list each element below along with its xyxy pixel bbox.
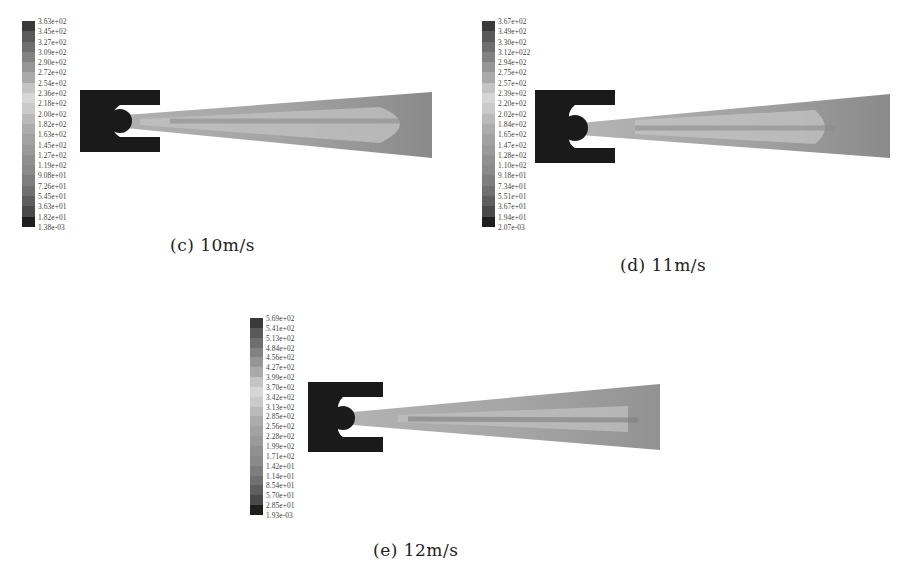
- colorbar-ticks-c: 3.63e+023.45e+023.27e+023.09e+022.90e+02…: [38, 17, 67, 233]
- colorbar-tick-label: 2.54e+02: [38, 79, 67, 89]
- colorbar-segment: [250, 485, 263, 495]
- colorbar-segment: [482, 124, 495, 134]
- colorbar-segment: [482, 103, 495, 113]
- colorbar-segment: [250, 367, 263, 377]
- colorbar-segment: [482, 52, 495, 62]
- colorbar-segment: [482, 114, 495, 124]
- colorbar-segment: [482, 72, 495, 82]
- colorbar-tick-label: 4.56e+02: [266, 353, 295, 363]
- colorbar-segment: [22, 134, 35, 144]
- colorbar-segment: [482, 206, 495, 216]
- colorbar-tick-label: 3.09e+02: [38, 48, 67, 58]
- colorbar-segment: [250, 338, 263, 348]
- colorbar-segment: [22, 145, 35, 155]
- colorbar-segment: [22, 21, 35, 31]
- colorbar-segment: [250, 397, 263, 407]
- colorbar-ticks-e: 5.69e+025.41e+025.13e+024.84e+024.56e+02…: [266, 314, 295, 521]
- colorbar-segment: [22, 217, 35, 227]
- colorbar-tick-label: 3.30e+02: [498, 38, 530, 48]
- colorbar-tick-label: 2.90e+02: [38, 58, 67, 68]
- colorbar-tick-label: 2.36e+02: [38, 89, 67, 99]
- colorbar-tick-label: 1.93e-03: [266, 511, 295, 521]
- colorbar-tick-label: 3.13e+02: [266, 403, 295, 413]
- colorbar-tick-label: 1.27e+02: [38, 151, 67, 161]
- caption-d: (d) 11m/s: [620, 255, 706, 275]
- colorbar-tick-label: 2.57e+02: [498, 79, 530, 89]
- colorbar-tick-label: 3.45e+02: [38, 27, 67, 37]
- colorbar-tick-label: 1.38e-03: [38, 223, 67, 233]
- colorbar-tick-label: 4.27e+02: [266, 363, 295, 373]
- colorbar-segment: [250, 446, 263, 456]
- colorbar-segment: [22, 124, 35, 134]
- colorbar-tick-label: 2.07e-03: [498, 223, 530, 233]
- colorbar-tick-label: 3.99e+02: [266, 373, 295, 383]
- colorbar-segment: [250, 328, 263, 338]
- colorbar-tick-label: 5.51e+01: [498, 192, 530, 202]
- velocity-contour-plot-c: [80, 85, 440, 165]
- colorbar-segment: [250, 407, 263, 417]
- velocity-contour-plot-d: [535, 90, 905, 165]
- colorbar-tick-label: 3.12e+022: [498, 48, 530, 58]
- colorbar-segment: [250, 436, 263, 446]
- colorbar-tick-label: 1.84e+02: [498, 120, 530, 130]
- colorbar-tick-label: 2.85e+02: [266, 412, 295, 422]
- colorbar-segment: [250, 466, 263, 476]
- colorbar-segment: [482, 134, 495, 144]
- colorbar-segment: [250, 456, 263, 466]
- colorbar-tick-label: 5.41e+02: [266, 324, 295, 334]
- colorbar-segment: [482, 31, 495, 41]
- colorbar-c: [22, 21, 35, 227]
- colorbar-segment: [22, 186, 35, 196]
- colorbar-segment: [22, 175, 35, 185]
- colorbar-e: [250, 318, 263, 515]
- velocity-contour-plot-e: [308, 382, 668, 457]
- colorbar-segment: [482, 145, 495, 155]
- colorbar-tick-label: 5.13e+02: [266, 334, 295, 344]
- colorbar-segment: [22, 103, 35, 113]
- colorbar-tick-label: 3.67e+01: [498, 202, 530, 212]
- colorbar-segment: [250, 348, 263, 358]
- colorbar-tick-label: 1.65e+02: [498, 130, 530, 140]
- colorbar-tick-label: 2.94e+02: [498, 58, 530, 68]
- colorbar-segment: [250, 357, 263, 367]
- colorbar-segment: [482, 165, 495, 175]
- colorbar-segment: [250, 476, 263, 486]
- colorbar-tick-label: 7.34e+01: [498, 182, 530, 192]
- colorbar-tick-label: 1.82e+02: [38, 120, 67, 130]
- colorbar-segment: [482, 93, 495, 103]
- colorbar-segment: [22, 83, 35, 93]
- colorbar-tick-label: 5.70e+01: [266, 491, 295, 501]
- colorbar-tick-label: 1.28e+02: [498, 151, 530, 161]
- colorbar-tick-label: 1.71e+02: [266, 452, 295, 462]
- panel-e: 5.69e+025.41e+025.13e+024.84e+024.56e+02…: [228, 297, 678, 565]
- colorbar-d: [482, 21, 495, 227]
- colorbar-segment: [250, 426, 263, 436]
- colorbar-tick-label: 2.02e+02: [498, 110, 530, 120]
- colorbar-tick-label: 1.10e+02: [498, 161, 530, 171]
- colorbar-tick-label: 3.70e+02: [266, 383, 295, 393]
- colorbar-segment: [250, 387, 263, 397]
- colorbar-tick-label: 9.18e+01: [498, 171, 530, 181]
- colorbar-segment: [22, 72, 35, 82]
- panel-d: 3.67e+023.49e+023.30e+023.12e+0222.94e+0…: [460, 0, 906, 290]
- colorbar-tick-label: 1.45e+02: [38, 141, 67, 151]
- colorbar-segment: [482, 21, 495, 31]
- colorbar-tick-label: 2.28e+02: [266, 432, 295, 442]
- colorbar-segment: [22, 196, 35, 206]
- colorbar-tick-label: 2.18e+02: [38, 99, 67, 109]
- colorbar-ticks-d: 3.67e+023.49e+023.30e+023.12e+0222.94e+0…: [498, 17, 530, 233]
- colorbar-tick-label: 3.42e+02: [266, 393, 295, 403]
- colorbar-segment: [22, 155, 35, 165]
- colorbar-segment: [250, 505, 263, 515]
- colorbar-segment: [250, 495, 263, 505]
- panel-c: 3.63e+023.45e+023.27e+023.09e+022.90e+02…: [0, 0, 450, 270]
- colorbar-tick-label: 2.72e+02: [38, 68, 67, 78]
- colorbar-tick-label: 5.69e+02: [266, 314, 295, 324]
- colorbar-segment: [482, 217, 495, 227]
- colorbar-segment: [482, 186, 495, 196]
- colorbar-segment: [250, 318, 263, 328]
- colorbar-tick-label: 8.54e+01: [266, 481, 295, 491]
- colorbar-tick-label: 3.63e+01: [38, 202, 67, 212]
- colorbar-tick-label: 1.14e+01: [266, 472, 295, 482]
- colorbar-tick-label: 3.27e+02: [38, 38, 67, 48]
